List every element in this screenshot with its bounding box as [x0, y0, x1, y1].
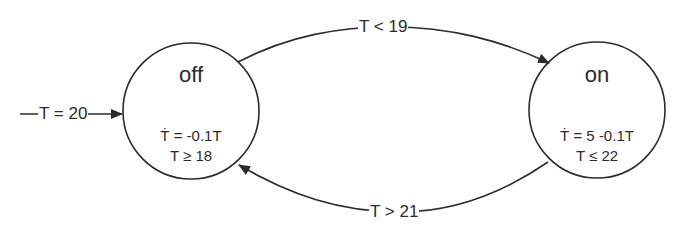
- diagram-canvas: [0, 0, 687, 230]
- state-on-invariant: T ≤ 22: [537, 146, 657, 165]
- state-off-name: off: [141, 62, 241, 88]
- state-off-flow: Ṫ = -0.1T: [131, 126, 251, 145]
- state-on-flow: Ṫ = 5 -0.1T: [537, 126, 657, 145]
- state-on-name: on: [547, 62, 647, 88]
- initial-label: T = 20: [38, 105, 88, 122]
- transition-on-to-off-label: T > 21: [369, 203, 419, 220]
- state-off-invariant: T ≥ 18: [131, 146, 251, 165]
- transition-off-to-on-label: T < 19: [358, 18, 408, 35]
